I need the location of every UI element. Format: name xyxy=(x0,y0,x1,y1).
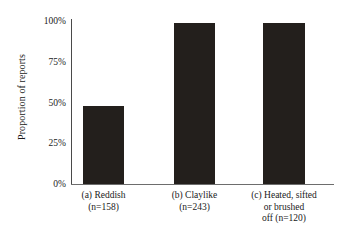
bar-chart-figure: Proportion of reports 100% 75% 50% 25% 0… xyxy=(0,0,344,243)
bar-reddish xyxy=(83,106,124,184)
bar-heated-sifted-brushed xyxy=(263,23,305,184)
x-category-label-c: (c) Heated, sifted or brushed off (n=120… xyxy=(229,190,339,225)
x-axis-line xyxy=(71,184,334,185)
bar-claylike xyxy=(174,23,215,184)
y-tick-label-0: 0% xyxy=(26,179,66,189)
y-tick-label-25: 25% xyxy=(26,138,66,148)
y-tick-label-100: 100% xyxy=(26,16,66,26)
y-tick-label-75: 75% xyxy=(26,57,66,67)
y-tick-label-50: 50% xyxy=(26,98,66,108)
plot-area xyxy=(72,21,334,184)
